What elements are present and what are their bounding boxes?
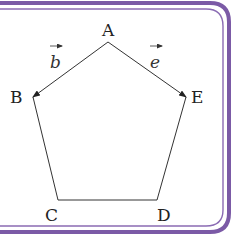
- label-a: A: [101, 20, 115, 40]
- label-e: E: [191, 87, 203, 107]
- frame-inner: [0, 9, 223, 226]
- vector-e-label: e: [150, 52, 160, 72]
- pentagon-diagram: A B E C D b e: [0, 0, 232, 235]
- label-b: B: [10, 87, 23, 107]
- label-c: C: [45, 205, 58, 225]
- vector-e-line: [108, 42, 186, 97]
- vector-b-line: [33, 42, 108, 97]
- pentagon-sides: [33, 97, 186, 200]
- diagram-canvas: A B E C D b e: [0, 0, 232, 235]
- frame-outer: [0, 3, 229, 232]
- vector-b-label: b: [50, 52, 61, 72]
- label-d: D: [157, 205, 171, 225]
